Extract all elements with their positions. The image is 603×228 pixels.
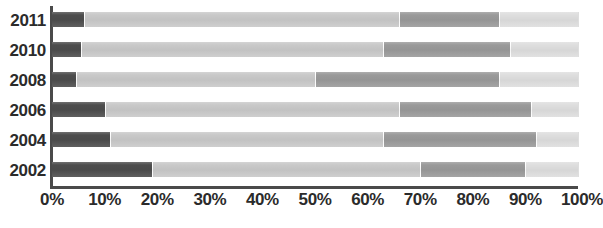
bar-track [52,162,578,177]
x-tick-label-30pct: 30% [193,190,226,210]
bar-segment-2002-segment-3 [420,162,526,177]
bar-track [52,42,578,57]
bar-track [52,12,578,27]
bar-segment-2011-segment-3 [399,12,500,27]
bar-segment-2008-segment-3 [315,72,500,87]
category-label-2011: 2011 [0,6,46,36]
plot-area: 201120102008200620042002 [0,0,592,190]
bar-track [52,102,578,117]
bar-segment-2006-segment-2 [105,102,401,117]
bar-segment-2011-segment-1 [52,12,84,27]
bar-segment-2004-segment-3 [383,132,537,147]
category-label-2006: 2006 [0,96,46,126]
x-tick-label-0pct: 0% [40,190,64,210]
bar-segment-2004-segment-4 [536,132,579,147]
category-label-2010: 2010 [0,36,46,66]
bar-track [52,132,578,147]
bar-segment-2008-segment-4 [499,72,579,87]
bar-segment-2011-segment-2 [84,12,401,27]
x-tick-label-60pct: 60% [351,190,384,210]
x-tick-label-20pct: 20% [141,190,174,210]
x-tick-label-80pct: 80% [456,190,489,210]
bar-segment-2010-segment-1 [52,42,81,57]
bar-row: 2006 [0,96,592,126]
bar-row: 2004 [0,126,592,156]
bar-track [52,72,578,87]
bar-row: 2008 [0,66,592,96]
x-tick-label-90pct: 90% [509,190,542,210]
x-axis-tick-labels: 0%10%20%30%40%50%60%70%80%90%100% [0,190,592,222]
bar-row: 2011 [0,6,592,36]
bar-segment-2002-segment-4 [525,162,579,177]
bar-segment-2008-segment-2 [76,72,316,87]
bar-row: 2002 [0,156,592,186]
bar-segment-2010-segment-3 [383,42,510,57]
bar-segment-2002-segment-2 [152,162,421,177]
bar-segment-2008-segment-1 [52,72,76,87]
x-tick-label-100pct: 100% [561,190,603,210]
bar-segment-2006-segment-1 [52,102,105,117]
bar-segment-2006-segment-4 [531,102,579,117]
bar-segment-2011-segment-4 [499,12,579,27]
category-label-2002: 2002 [0,156,46,186]
category-label-2008: 2008 [0,66,46,96]
x-tick-label-70pct: 70% [404,190,437,210]
bar-segment-2004-segment-1 [52,132,110,147]
bar-row: 2010 [0,36,592,66]
x-tick-label-10pct: 10% [88,190,121,210]
value-axis-line [50,186,578,189]
x-tick-label-50pct: 50% [299,190,332,210]
category-label-2004: 2004 [0,126,46,156]
bar-segment-2010-segment-2 [81,42,384,57]
bar-segment-2006-segment-3 [399,102,532,117]
bar-segment-2010-segment-4 [510,42,579,57]
bar-segment-2002-segment-1 [52,162,152,177]
bar-segment-2004-segment-2 [110,132,385,147]
x-tick-label-40pct: 40% [246,190,279,210]
